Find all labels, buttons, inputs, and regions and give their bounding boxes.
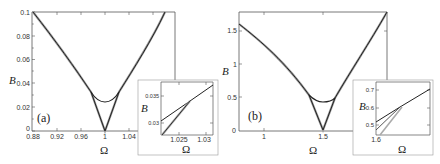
panel-b-xticks: [264, 12, 323, 131]
a-inset-xlabel: Ω: [182, 143, 190, 155]
b-ytick-1: 1: [233, 61, 237, 68]
a-inset-ytick-0.03: 0.03: [148, 120, 159, 126]
b-inset-ytick-0.7: 0.7: [366, 87, 375, 93]
panel-b-inset: 0.7 0.6 0.5 1.6 B Ω: [353, 80, 433, 155]
b-inset-ytick-0.5: 0.5: [366, 122, 375, 128]
a-ytick-0: 0: [26, 125, 30, 132]
a-inset-ylabel: B: [141, 102, 148, 114]
a-ytick-0.06: 0.06: [16, 56, 30, 63]
figure: 0.1 0.08 0.06 0.04 0.02 0 0.88 0.92 0.96…: [0, 0, 440, 164]
b-panel-label: (b): [248, 109, 262, 123]
a-xlabel: Ω: [100, 144, 108, 156]
b-ylabel: B: [222, 65, 229, 77]
a-ytick-0.1: 0.1: [20, 9, 30, 16]
a-ylabel: B: [9, 74, 16, 86]
a-ytick-0.08: 0.08: [16, 33, 30, 40]
b-ytick-0.5: 0.5: [227, 94, 237, 101]
b-xlabel: Ω: [309, 144, 317, 156]
a-inset-ytick-0.035: 0.035: [145, 93, 159, 99]
b-inset-xlabel: Ω: [398, 143, 406, 155]
b-inset-ytick-0.6: 0.6: [366, 105, 375, 111]
a-panel-label: (a): [37, 111, 50, 125]
a-inset-frame: [138, 80, 218, 155]
a-xtick-0.92: 0.92: [50, 133, 64, 140]
b-ytick-1.5: 1.5: [227, 27, 237, 34]
b-xtick-1.5: 1.5: [318, 133, 328, 140]
b-ytick-0: 0: [232, 127, 236, 134]
b-xtick-1: 1: [262, 133, 266, 140]
b-inset-ylabel: B: [359, 100, 366, 112]
a-ytick-0.02: 0.02: [16, 104, 30, 111]
a-inset-xtick-1.03: 1.03: [197, 136, 211, 143]
a-inset-xtick-1.025: 1.025: [170, 136, 188, 143]
b-upper-cusp-branch: [309, 95, 335, 102]
panel-a-yticks: [32, 12, 35, 131]
panel-a-inset: 0.035 0.03 1.025 1.03 B Ω: [138, 80, 218, 155]
a-xtick-1.04: 1.04: [122, 133, 136, 140]
a-ytick-0.04: 0.04: [16, 80, 30, 87]
a-xtick-0.96: 0.96: [74, 133, 88, 140]
a-xtick-0.88: 0.88: [26, 133, 40, 140]
b-inset-xtick-1.6: 1.6: [371, 136, 381, 143]
